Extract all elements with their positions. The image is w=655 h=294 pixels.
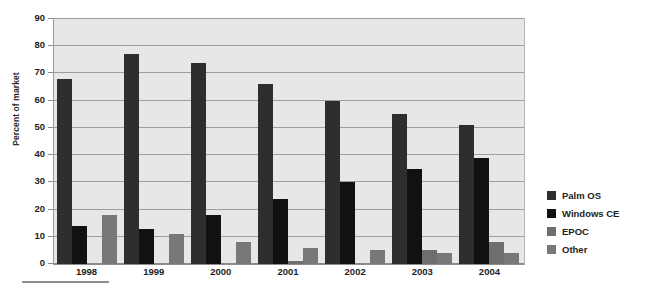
x-axis-tick-label: 1998	[57, 266, 117, 277]
y-axis-tick-label: 10	[3, 230, 45, 241]
bar-epoc-2003	[422, 250, 437, 264]
y-axis-tick-label: 70	[3, 66, 45, 77]
bar-windows-ce-2002	[340, 182, 355, 264]
bar-other-2003	[437, 253, 452, 264]
legend-label: Other	[562, 244, 587, 255]
bar-palm-os-2002	[325, 101, 340, 264]
y-axis-tick-label: 30	[3, 175, 45, 186]
bar-windows-ce-1998	[72, 226, 87, 264]
bar-palm-os-2000	[191, 63, 206, 264]
bar-epoc-2004	[489, 242, 504, 264]
legend-swatch-icon	[547, 245, 556, 254]
bar-windows-ce-2000	[206, 215, 221, 264]
legend-swatch-icon	[547, 191, 556, 200]
x-axis-tick-label: 2002	[325, 266, 385, 277]
x-axis-tick-label: 1999	[124, 266, 184, 277]
plot-area	[53, 18, 525, 265]
x-axis-tick-label: 2004	[459, 266, 519, 277]
x-axis-tick-label: 2000	[191, 266, 251, 277]
y-axis-tick-label: 50	[3, 121, 45, 132]
legend-label: EPOC	[562, 226, 589, 237]
bar-epoc-2001	[288, 261, 303, 264]
legend-label: Palm OS	[562, 190, 601, 201]
bar-other-1999	[169, 234, 184, 264]
y-axis-tick-label: 80	[3, 39, 45, 50]
y-axis-tick-label: 0	[3, 257, 45, 268]
legend-swatch-icon	[547, 227, 556, 236]
bar-palm-os-1998	[57, 79, 72, 264]
legend-item-other[interactable]: Other	[547, 240, 619, 258]
bar-other-2004	[504, 253, 519, 264]
bar-other-2002	[370, 250, 385, 264]
legend-label: Windows CE	[562, 208, 619, 219]
bar-palm-os-1999	[124, 54, 139, 264]
legend-item-windows-ce[interactable]: Windows CE	[547, 204, 619, 222]
y-axis-tick-label: 90	[3, 12, 45, 23]
bar-palm-os-2001	[258, 84, 273, 264]
bar-windows-ce-2003	[407, 169, 422, 264]
x-axis-tick-label: 2001	[258, 266, 318, 277]
caption-divider	[22, 281, 109, 283]
bar-palm-os-2004	[459, 125, 474, 264]
bar-group	[54, 19, 524, 264]
bar-other-2001	[303, 248, 318, 264]
legend-item-epoc[interactable]: EPOC	[547, 222, 619, 240]
bar-windows-ce-2001	[273, 199, 288, 264]
legend-swatch-icon	[547, 209, 556, 218]
y-axis-tick-label: 60	[3, 94, 45, 105]
bar-other-1998	[102, 215, 117, 264]
bar-chart-figure: Percent of market 0102030405060708090 19…	[0, 0, 655, 294]
x-axis-tick-label: 2003	[392, 266, 452, 277]
y-axis-tick-label: 20	[3, 203, 45, 214]
bar-palm-os-2003	[392, 114, 407, 264]
legend-item-palm-os[interactable]: Palm OS	[547, 186, 619, 204]
y-axis-tick-label: 40	[3, 148, 45, 159]
chart-legend: Palm OSWindows CEEPOCOther	[547, 186, 619, 258]
bar-other-2000	[236, 242, 251, 264]
bar-windows-ce-1999	[139, 229, 154, 264]
bar-windows-ce-2004	[474, 158, 489, 264]
